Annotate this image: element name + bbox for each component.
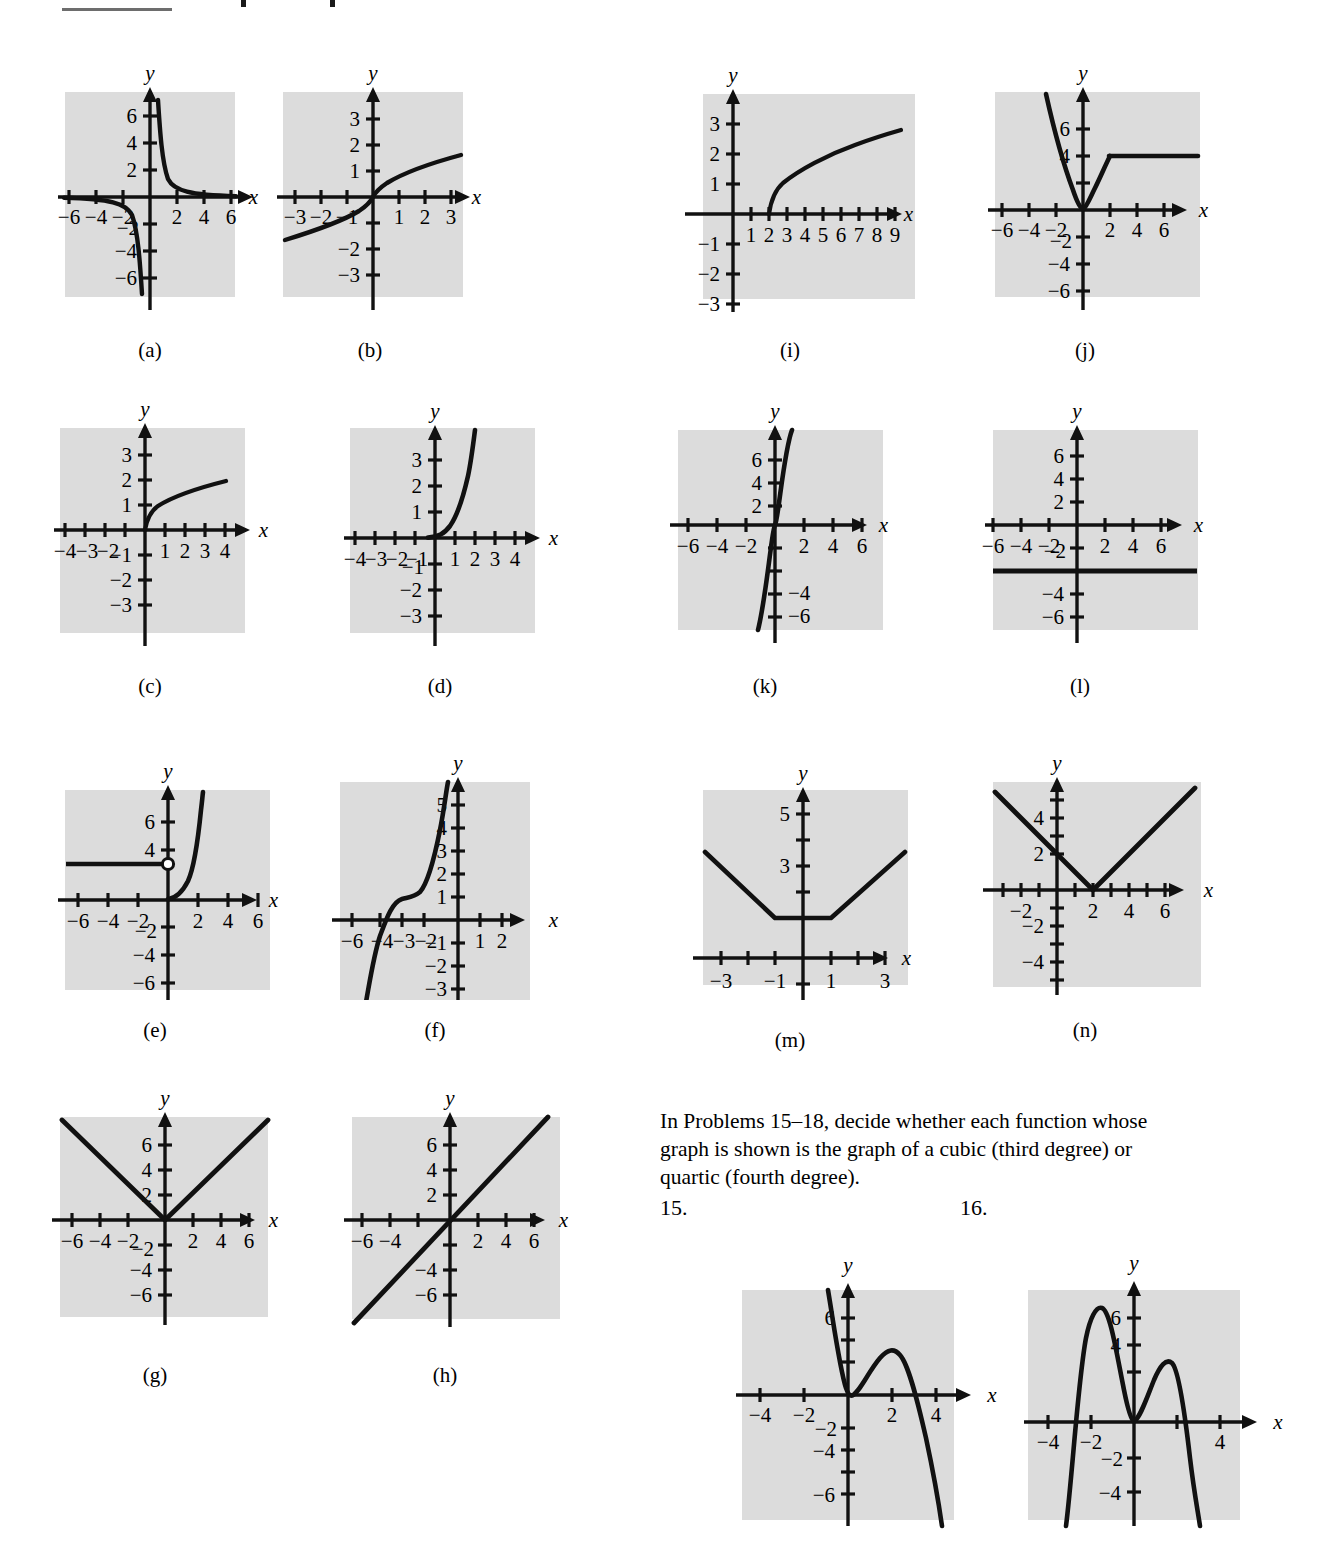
figure-i: 123 456 789 32 1−1 −2−3 x y (i)	[665, 62, 915, 362]
problem-instructions: In Problems 15–18, decide whether each f…	[660, 1108, 1280, 1192]
svg-text:x: x	[558, 1208, 569, 1232]
svg-text:y: y	[366, 62, 378, 85]
instruction-line-1: In Problems 15–18, decide whether each f…	[660, 1108, 1280, 1136]
svg-text:2: 2	[710, 142, 721, 166]
svg-text:−6: −6	[133, 971, 155, 995]
svg-text:−6: −6	[788, 604, 810, 628]
svg-text:−4: −4	[813, 1439, 836, 1463]
svg-text:4: 4	[1132, 218, 1143, 242]
svg-text:1: 1	[160, 539, 171, 563]
plot-16: −4−24 64 −2−4 x y	[1020, 1230, 1310, 1530]
svg-text:7: 7	[854, 223, 865, 247]
svg-text:1: 1	[475, 929, 486, 953]
svg-text:x: x	[901, 946, 912, 970]
svg-text:2: 2	[1088, 899, 1099, 923]
svg-text:6: 6	[752, 448, 763, 472]
svg-text:6: 6	[142, 1133, 153, 1157]
svg-text:−3: −3	[393, 929, 415, 953]
figure-c: −4−3−2 1234 32 1−1 −2−3 x y (c)	[30, 398, 270, 698]
svg-text:−2: −2	[1022, 914, 1044, 938]
svg-text:3: 3	[880, 969, 891, 993]
figure-d: −4−3−2−1 1234 32 1−1 −2−3 x y (d)	[320, 398, 560, 698]
svg-text:1: 1	[350, 159, 361, 183]
svg-text:−4: −4	[54, 539, 77, 563]
svg-text:4: 4	[127, 131, 138, 155]
svg-text:y: y	[726, 63, 738, 87]
svg-text:6: 6	[145, 810, 156, 834]
svg-text:−6: −6	[1042, 605, 1064, 629]
svg-text:x: x	[986, 1383, 997, 1407]
svg-text:−4: −4	[115, 239, 138, 263]
svg-text:x: x	[471, 185, 482, 209]
caption-a: (a)	[40, 338, 260, 363]
svg-text:3: 3	[200, 539, 211, 563]
svg-text:x: x	[548, 908, 559, 932]
svg-text:4: 4	[1124, 899, 1135, 923]
svg-text:−2: −2	[815, 1417, 837, 1441]
svg-text:1: 1	[710, 172, 721, 196]
svg-text:6: 6	[226, 205, 237, 229]
svg-text:−4: −4	[788, 581, 811, 605]
svg-text:−4: −4	[1018, 218, 1041, 242]
svg-text:x: x	[258, 518, 269, 542]
svg-text:4: 4	[220, 539, 231, 563]
svg-text:6: 6	[127, 104, 138, 128]
svg-text:4: 4	[752, 471, 763, 495]
svg-text:5: 5	[818, 223, 829, 247]
svg-text:2: 2	[172, 205, 183, 229]
svg-text:2: 2	[1100, 534, 1111, 558]
plot-b: −3−2−1 123 32 1 −2−3 x y	[255, 62, 485, 332]
svg-text:−2: −2	[135, 919, 157, 943]
svg-text:y: y	[428, 399, 440, 423]
svg-text:x: x	[548, 526, 559, 550]
caption-c: (c)	[30, 674, 270, 699]
svg-text:y: y	[796, 761, 808, 785]
plot-15: −4−2 24 6 −2 −4−6 x y	[730, 1230, 1020, 1530]
svg-text:−3: −3	[76, 539, 98, 563]
figure-e: −6−4−2 246 64 −2 −4−6 x y (e)	[30, 730, 280, 1030]
svg-text:4: 4	[216, 1229, 227, 1253]
svg-text:1: 1	[122, 493, 133, 517]
plot-l: −6−4−2 246 64 2−2 −4−6 x y	[955, 398, 1205, 668]
plot-f: −6−4−3−2 12 54 32 1−1 −2−3 x y	[310, 730, 560, 1000]
svg-text:−1: −1	[425, 931, 447, 955]
svg-text:4: 4	[828, 534, 839, 558]
svg-text:−6: −6	[1048, 279, 1070, 303]
svg-text:1: 1	[826, 969, 837, 993]
figure-j: −6−4−2 246 64 −2 −4−6 x y (j)	[960, 62, 1210, 362]
svg-text:4: 4	[427, 1158, 438, 1182]
svg-text:y: y	[768, 399, 780, 423]
svg-text:−3: −3	[698, 292, 720, 316]
svg-text:x: x	[903, 202, 914, 226]
svg-text:−6: −6	[677, 534, 699, 558]
svg-text:−6: −6	[351, 1229, 373, 1253]
svg-text:4: 4	[510, 547, 521, 571]
svg-text:6: 6	[1160, 899, 1171, 923]
plot-j: −6−4−2 246 64 −2 −4−6 x y	[960, 62, 1210, 332]
caption-b: (b)	[255, 338, 485, 363]
svg-text:−6: −6	[130, 1283, 152, 1307]
svg-text:−3: −3	[110, 593, 132, 617]
svg-text:−4: −4	[415, 1258, 438, 1282]
svg-text:4: 4	[931, 1403, 942, 1427]
top-rule	[62, 8, 172, 11]
svg-text:4: 4	[142, 1158, 153, 1182]
svg-text:−4: −4	[1010, 534, 1033, 558]
svg-text:−1: −1	[764, 969, 786, 993]
svg-text:3: 3	[122, 443, 133, 467]
svg-text:−2: −2	[698, 262, 720, 286]
svg-text:y: y	[443, 1086, 455, 1110]
svg-text:−1: −1	[110, 543, 132, 567]
svg-text:y: y	[1127, 1251, 1139, 1275]
svg-text:−6: −6	[67, 909, 89, 933]
svg-text:3: 3	[710, 112, 721, 136]
svg-text:2: 2	[1034, 842, 1045, 866]
svg-text:1: 1	[437, 885, 448, 909]
svg-text:2: 2	[350, 133, 361, 157]
svg-text:−4: −4	[344, 547, 367, 571]
svg-text:−4: −4	[133, 943, 156, 967]
svg-text:4: 4	[145, 838, 156, 862]
svg-text:−4: −4	[706, 534, 729, 558]
caption-m: (m)	[665, 1028, 915, 1053]
svg-text:2: 2	[437, 862, 448, 886]
